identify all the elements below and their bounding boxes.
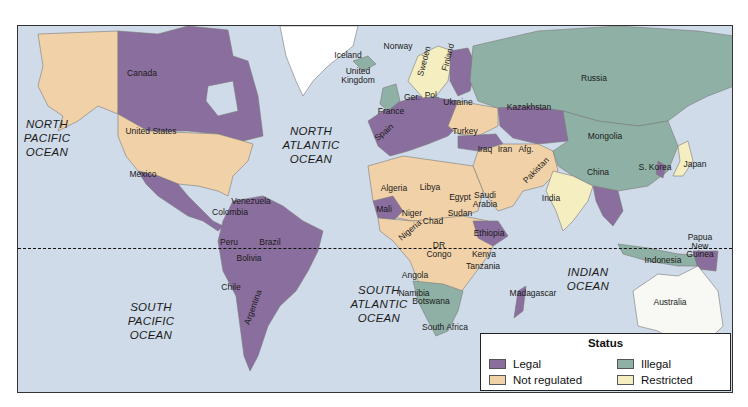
country-label: Colombia	[212, 208, 248, 217]
country-label: Russia	[581, 74, 607, 83]
country-label: Peru	[220, 238, 238, 247]
ocean-label: NORTH ATLANTIC OCEAN	[282, 125, 339, 166]
country-label: Japan	[683, 160, 706, 169]
legend: Status Legal Illegal Not regulated Restr…	[480, 333, 731, 391]
ocean-label: SOUTH PACIFIC OCEAN	[128, 301, 175, 342]
region-canada	[118, 26, 263, 141]
equator-line	[18, 248, 732, 249]
country-label: Norway	[384, 42, 413, 51]
country-label: Papua New Guinea	[686, 233, 713, 259]
legend-swatch-restricted	[617, 375, 634, 385]
country-label: Tanzania	[466, 262, 500, 271]
country-label: Chile	[221, 283, 240, 292]
country-label: Iran	[498, 145, 513, 154]
ocean-label: NORTH PACIFIC OCEAN	[24, 118, 71, 159]
country-label: France	[378, 107, 404, 116]
country-label: S. Korea	[638, 163, 671, 172]
region-greenland	[280, 26, 358, 96]
country-label: Brazil	[259, 238, 280, 247]
country-label: Ukraine	[443, 98, 472, 107]
country-label: Iraq	[478, 145, 493, 154]
country-label: Botswana	[412, 297, 449, 306]
country-label: Kenya	[472, 250, 496, 259]
country-label: Sudan	[448, 209, 473, 218]
region-alaska	[38, 31, 118, 131]
country-label: Egypt	[449, 193, 471, 202]
legend-swatch-not-regulated	[489, 375, 506, 385]
legend-title: Status	[481, 337, 730, 349]
country-label: Madagascar	[510, 289, 557, 298]
country-label: Saudi Arabia	[473, 191, 498, 208]
legend-label-legal: Legal	[513, 358, 541, 370]
country-label: Ethiopia	[474, 229, 505, 238]
country-label: Chad	[423, 217, 443, 226]
legend-item-restricted: Restricted	[617, 374, 693, 386]
country-label: Mali	[376, 205, 392, 214]
country-label: Canada	[127, 69, 157, 78]
country-label: Indonesia	[645, 256, 682, 265]
legend-item-not-regulated: Not regulated	[489, 374, 582, 386]
country-label: Turkey	[452, 127, 478, 136]
country-label: Venezuela	[231, 197, 271, 206]
country-label: Bolivia	[236, 254, 261, 263]
legend-item-legal: Legal	[489, 358, 541, 370]
country-label: United Kingdom	[341, 67, 375, 84]
region-se-asia	[593, 186, 623, 226]
country-label: DR Congo	[426, 241, 451, 258]
ocean-label: INDIAN OCEAN	[567, 266, 609, 294]
country-label: United States	[125, 127, 176, 136]
country-label: Libya	[420, 183, 440, 192]
country-label: Afg.	[518, 145, 533, 154]
country-label: China	[587, 168, 609, 177]
legend-item-illegal: Illegal	[617, 358, 671, 370]
legend-swatch-legal	[489, 359, 506, 369]
country-label: Ger.	[404, 93, 420, 102]
country-label: Kazakhstan	[507, 103, 551, 112]
country-label: Australia	[653, 298, 686, 307]
country-label: South Africa	[422, 323, 468, 332]
legend-label-not-regulated: Not regulated	[513, 374, 582, 386]
country-label: Mongolia	[588, 132, 623, 141]
legend-swatch-illegal	[617, 359, 634, 369]
legend-label-restricted: Restricted	[641, 374, 693, 386]
country-label: Angola	[402, 271, 428, 280]
world-map: NORTH PACIFIC OCEANNORTH ATLANTIC OCEANS…	[17, 25, 733, 393]
country-label: Algeria	[381, 184, 407, 193]
country-label: India	[542, 194, 560, 203]
country-label: Iceland	[334, 51, 361, 60]
country-label: Niger	[402, 209, 422, 218]
country-label: Mexico	[130, 170, 157, 179]
legend-label-illegal: Illegal	[641, 358, 671, 370]
country-label: Pol.	[425, 91, 440, 100]
